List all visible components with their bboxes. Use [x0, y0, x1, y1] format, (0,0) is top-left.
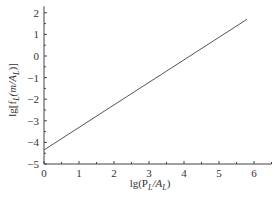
y-tick-label: 0	[34, 50, 40, 62]
y-tick-label: 2	[34, 7, 40, 19]
x-tick-label: 5	[216, 167, 222, 179]
ticks: −5−4−3−2−10120123456	[27, 7, 271, 179]
x-tick-label: 2	[111, 167, 117, 179]
y-tick-label: −3	[27, 115, 39, 127]
x-axis-label: lg(PL/AL)	[130, 177, 171, 192]
chart: −5−4−3−2−10120123456 lg(PL/AL) lg[fL(m/A…	[0, 0, 279, 198]
axes	[44, 6, 272, 164]
x-tick-label: 4	[181, 167, 187, 179]
y-tick-label: −1	[27, 72, 39, 84]
data-line	[44, 19, 247, 150]
series	[44, 19, 247, 150]
y-tick-label: 1	[34, 28, 40, 40]
y-tick-label: −2	[27, 93, 39, 105]
y-tick-label: −5	[27, 158, 39, 170]
x-tick-label: 0	[41, 167, 47, 179]
y-tick-label: −4	[27, 136, 39, 148]
y-axis-label: lg[fL(m/AL)]	[6, 63, 21, 117]
x-tick-label: 6	[251, 167, 257, 179]
x-tick-label: 1	[76, 167, 82, 179]
